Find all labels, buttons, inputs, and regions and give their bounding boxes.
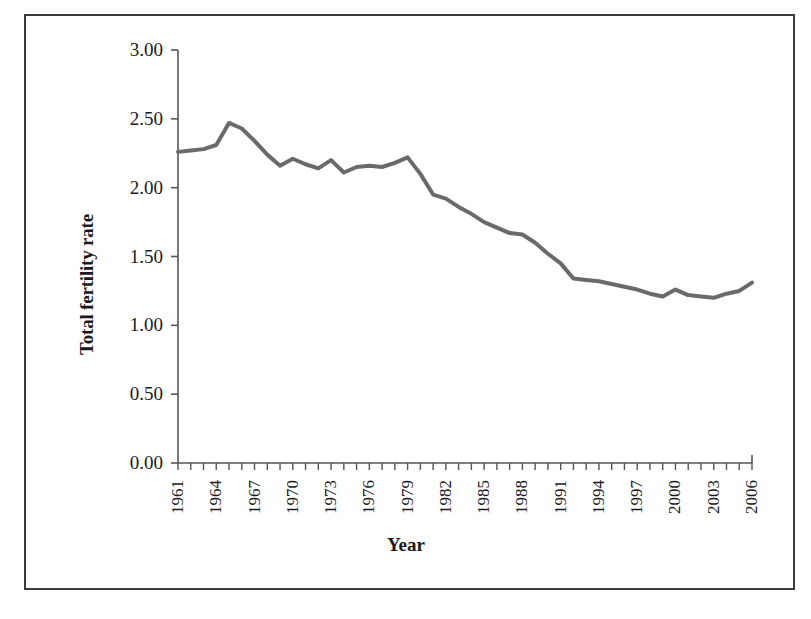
axis-lines: [178, 50, 752, 463]
x-tick-label: 2006: [730, 475, 774, 519]
y-tick-label: 2.50: [85, 108, 163, 130]
x-axis-title: Year: [387, 534, 425, 556]
x-tick-label: 1979: [386, 475, 430, 519]
x-tick-label: 1988: [500, 475, 544, 519]
x-tick-label: 1967: [233, 475, 277, 519]
y-tick-label: 3.00: [85, 39, 163, 61]
x-tick-label: 1964: [194, 475, 238, 519]
y-tick-label: 0.00: [85, 452, 163, 474]
y-axis-ticks: [171, 50, 178, 463]
figure-container: 0.000.501.001.502.002.503.00 19611964196…: [0, 0, 811, 619]
y-axis-title: Total fertility rate: [76, 214, 98, 355]
line-chart: [0, 0, 811, 619]
y-tick-label: 2.00: [85, 177, 163, 199]
y-tick-label: 0.50: [85, 383, 163, 405]
x-tick-label: 1976: [347, 475, 391, 519]
fertility-rate-line: [178, 123, 752, 298]
x-axis-ticks: [178, 463, 752, 470]
x-tick-label: 2000: [653, 475, 697, 519]
